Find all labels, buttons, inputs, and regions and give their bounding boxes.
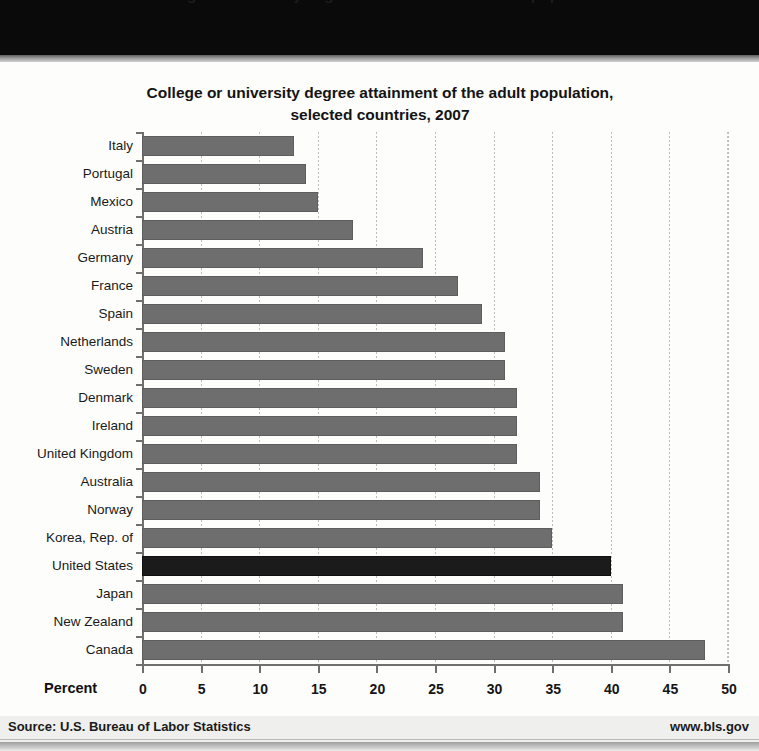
bar-row — [142, 136, 728, 157]
plot-area — [142, 132, 728, 664]
bar-row — [142, 220, 728, 241]
y-label-netherlands: Netherlands — [60, 335, 133, 349]
x-tick-0 — [142, 664, 144, 673]
y-tick — [136, 580, 143, 582]
y-tick — [136, 412, 143, 414]
bar-france[interactable] — [142, 276, 458, 297]
bar-row — [142, 360, 728, 381]
y-label-australia: Australia — [80, 475, 133, 489]
x-tick-40 — [611, 664, 613, 673]
y-label-united-states: United States — [52, 559, 133, 573]
bar-row — [142, 528, 728, 549]
y-tick — [136, 496, 143, 498]
footer-shadow — [0, 742, 759, 751]
band-shadow-divider — [0, 55, 759, 62]
y-label-germany: Germany — [77, 251, 133, 265]
x-tick-label-30: 30 — [487, 681, 503, 697]
footer-url-text[interactable]: www.bls.gov — [670, 719, 749, 734]
y-tick — [136, 524, 143, 526]
y-tick — [136, 188, 143, 190]
y-tick — [136, 608, 143, 610]
bar-row — [142, 388, 728, 409]
x-tick-label-35: 35 — [545, 681, 561, 697]
y-tick — [136, 468, 143, 470]
y-label-ireland: Ireland — [92, 419, 133, 433]
bar-row — [142, 332, 728, 353]
footer-rule — [0, 739, 759, 740]
bar-row — [142, 640, 728, 661]
bar-row — [142, 500, 728, 521]
bar-row — [142, 444, 728, 465]
x-tick-50 — [728, 664, 730, 673]
bar-new-zealand[interactable] — [142, 612, 623, 633]
x-tick-45 — [669, 664, 671, 673]
y-label-denmark: Denmark — [78, 391, 133, 405]
bar-portugal[interactable] — [142, 164, 306, 185]
x-axis-title: Percent — [44, 680, 97, 696]
x-tick-label-50: 50 — [721, 681, 737, 697]
bar-row — [142, 304, 728, 325]
bar-row — [142, 276, 728, 297]
chart-title: College or university degree attainment … — [60, 82, 700, 127]
bar-ireland[interactable] — [142, 416, 517, 437]
bar-netherlands[interactable] — [142, 332, 505, 353]
y-label-sweden: Sweden — [84, 363, 133, 377]
x-tick-label-10: 10 — [252, 681, 268, 697]
bar-denmark[interactable] — [142, 388, 517, 409]
y-tick — [136, 216, 143, 218]
bar-germany[interactable] — [142, 248, 423, 269]
bar-korea-rep-of[interactable] — [142, 528, 552, 549]
x-tick-label-20: 20 — [370, 681, 386, 697]
y-tick — [136, 356, 143, 358]
bar-japan[interactable] — [142, 584, 623, 605]
x-tick-15 — [318, 664, 320, 673]
gridline-50 — [728, 132, 729, 664]
x-tick-label-40: 40 — [604, 681, 620, 697]
y-tick — [136, 636, 143, 638]
x-tick-30 — [494, 664, 496, 673]
chart-title-line-2: selected countries, 2007 — [60, 104, 700, 126]
bar-austria[interactable] — [142, 220, 353, 241]
y-tick — [136, 160, 143, 162]
x-tick-label-25: 25 — [428, 681, 444, 697]
bar-united-states[interactable] — [142, 556, 611, 577]
y-tick — [136, 328, 143, 330]
cropped-header-text: College or university degree attainment … — [0, 0, 759, 3]
x-tick-35 — [552, 664, 554, 673]
bar-norway[interactable] — [142, 500, 540, 521]
y-label-korea-rep-of: Korea, Rep. of — [46, 531, 133, 545]
y-tick — [136, 272, 143, 274]
y-label-united-kingdom: United Kingdom — [37, 447, 133, 461]
y-tick — [136, 440, 143, 442]
y-label-canada: Canada — [86, 643, 133, 657]
y-tick — [136, 132, 143, 134]
y-label-france: France — [91, 279, 133, 293]
bar-row — [142, 612, 728, 633]
x-tick-label-45: 45 — [663, 681, 679, 697]
y-tick — [136, 300, 143, 302]
x-tick-10 — [259, 664, 261, 673]
y-tick — [136, 552, 143, 554]
y-label-japan: Japan — [96, 587, 133, 601]
y-tick — [136, 244, 143, 246]
y-label-mexico: Mexico — [90, 195, 133, 209]
chart-title-line-1: College or university degree attainment … — [60, 82, 700, 104]
y-label-portugal: Portugal — [83, 167, 133, 181]
x-tick-label-5: 5 — [198, 681, 206, 697]
bar-row — [142, 192, 728, 213]
bar-canada[interactable] — [142, 640, 705, 661]
bar-row — [142, 556, 728, 577]
bar-italy[interactable] — [142, 136, 294, 157]
bar-united-kingdom[interactable] — [142, 444, 517, 465]
bar-row — [142, 416, 728, 437]
bar-australia[interactable] — [142, 472, 540, 493]
y-label-italy: Italy — [108, 139, 133, 153]
bar-sweden[interactable] — [142, 360, 505, 381]
x-tick-label-15: 15 — [311, 681, 327, 697]
y-label-norway: Norway — [87, 503, 133, 517]
footer-bar: Source: U.S. Bureau of Labor Statistics … — [0, 716, 759, 751]
bar-mexico[interactable] — [142, 192, 318, 213]
footer-source-text: Source: U.S. Bureau of Labor Statistics — [8, 719, 251, 734]
top-black-band: College or university degree attainment … — [0, 0, 759, 55]
bar-spain[interactable] — [142, 304, 482, 325]
